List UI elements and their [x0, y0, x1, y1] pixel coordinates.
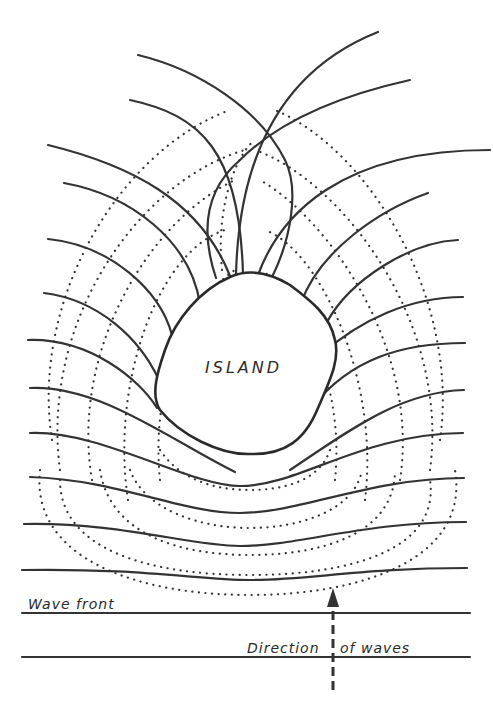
- island-label: ISLAND: [205, 358, 282, 377]
- direction-label: Direction: [247, 640, 320, 656]
- of-waves-label: of waves: [340, 640, 410, 656]
- wave-front-label: Wave front: [28, 596, 115, 612]
- direction-arrow: [327, 588, 339, 690]
